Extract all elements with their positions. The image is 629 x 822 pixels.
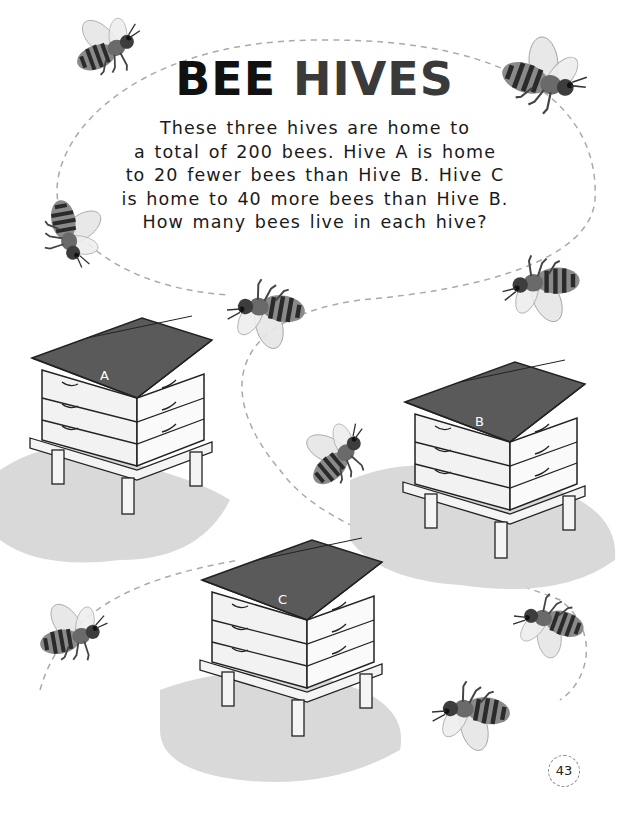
puzzle-text: These three hives are home to a total of… (95, 117, 535, 235)
puzzle-line: is home to 40 more bees than Hive B. (95, 188, 535, 212)
bee-icon (426, 676, 514, 759)
page-title: BEE HIVES (0, 52, 629, 106)
hive-c-label: C (278, 592, 287, 607)
bee-icon (503, 255, 580, 326)
bee-icon (503, 585, 591, 670)
hive-a-label: A (100, 368, 109, 383)
title-bee: BEE (175, 52, 276, 106)
puzzle-line: a total of 200 bees. Hive A is home (95, 141, 535, 165)
hive-b-label: B (475, 414, 484, 429)
bee-icon (33, 592, 113, 668)
page-number: 43 (548, 755, 580, 787)
bee-icon (221, 274, 309, 357)
puzzle-line: How many bees live in each hive? (95, 211, 535, 235)
puzzle-page: BEE HIVES These three hives are home to … (0, 0, 629, 822)
puzzle-line: These three hives are home to (95, 117, 535, 141)
puzzle-line: to 20 fewer bees than Hive B. Hive C (95, 164, 535, 188)
title-hives: HIVES (293, 52, 454, 106)
